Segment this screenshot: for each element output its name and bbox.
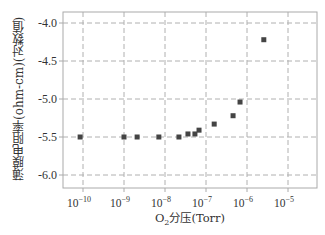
x-tick-label: 10−8 (151, 195, 171, 209)
chart-canvas: -4.0-4.5-5.0-5.5-6.0 10−1010−910−810−710… (0, 0, 325, 235)
y-axis-label: 薄膜电阻率(ohm-cm)(对数值) (10, 20, 30, 180)
x-tick-label: 10−6 (233, 195, 253, 209)
x-tick-label: 10−7 (192, 195, 212, 209)
x-tick-exponent: −10 (78, 195, 91, 204)
data-point-marker (122, 135, 127, 140)
y-tick-label: -4.5 (38, 54, 57, 68)
data-point-marker (185, 131, 190, 136)
data-point-marker (156, 135, 161, 140)
x-tick-label: 10−9 (110, 195, 130, 209)
x-tick-label: 10−5 (274, 195, 294, 209)
y-tick-label: -5.0 (38, 92, 57, 106)
data-point-marker (261, 37, 266, 42)
data-point-marker (212, 122, 217, 127)
grid-lines (63, 12, 317, 188)
data-point-marker (197, 128, 202, 133)
x-axis-label: O2分压(Torr) (140, 209, 240, 227)
x-axis-label-suffix: 分压(Torr) (169, 211, 225, 225)
x-tick-exponent: −7 (203, 195, 212, 204)
data-point-marker (176, 135, 181, 140)
x-tick-exponent: −9 (121, 195, 130, 204)
x-tick-label: 10−10 (67, 195, 91, 209)
data-point-marker (238, 100, 243, 105)
x-tick-exponent: −5 (285, 195, 294, 204)
x-tick-exponent: −6 (244, 195, 253, 204)
data-point-marker (231, 113, 236, 118)
data-point-marker (78, 135, 83, 140)
y-tick-label: -5.5 (38, 130, 57, 144)
data-points (78, 37, 267, 139)
x-axis-label-prefix: O (155, 211, 164, 225)
plot-frame (63, 12, 317, 188)
y-axis-ticks: -4.0-4.5-5.0-5.5-6.0 (38, 16, 63, 182)
x-axis-ticks: 10−1010−910−810−710−610−5 (67, 188, 294, 209)
y-tick-label: -6.0 (38, 168, 57, 182)
data-point-marker (135, 135, 140, 140)
y-tick-label: -4.0 (38, 16, 57, 30)
x-tick-exponent: −8 (162, 195, 171, 204)
